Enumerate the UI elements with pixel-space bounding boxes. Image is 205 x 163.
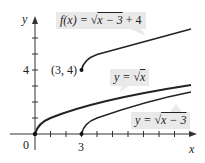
origin-point <box>33 132 37 136</box>
x-tick-label-3: 3 <box>78 140 84 154</box>
sqrtx-radicand: x <box>140 70 145 84</box>
origin-label: 0 <box>23 138 29 152</box>
point-label-3-4: (3, 4) <box>51 63 77 77</box>
label-f-equation: f(x) = √x − 3 + 4 <box>56 12 146 29</box>
shift-prefix: y = <box>135 113 154 127</box>
y-axis-label: y <box>22 12 27 26</box>
label-sqrt-x-minus-3-equation: y = √x − 3 <box>131 112 190 129</box>
x-axis-arrow-icon <box>189 131 197 137</box>
shift-label-pointer <box>170 104 182 112</box>
f-label-pointer <box>128 28 146 36</box>
x-axis-label: x <box>189 142 194 156</box>
y-tick-label-4: 4 <box>23 63 29 77</box>
sqrtx-prefix: y = <box>114 70 133 84</box>
label-sqrt-x-equation: y = √x <box>110 69 149 86</box>
point-3-4 <box>80 68 84 72</box>
point-3-0 <box>80 132 84 136</box>
f-radicand: x − 3 <box>97 13 122 27</box>
shift-radicand: x − 3 <box>161 113 186 127</box>
f-suffix: + 4 <box>123 13 142 27</box>
y-axis-arrow-icon <box>32 16 38 24</box>
f-prefix: f(x) = <box>60 13 91 27</box>
curve-f-shifted <box>82 29 192 70</box>
